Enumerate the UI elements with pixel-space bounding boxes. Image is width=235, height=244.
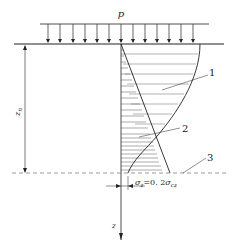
callout-1: 1	[209, 67, 215, 78]
depth-dimension	[23, 45, 27, 173]
additional-stress-curve	[128, 44, 200, 173]
callout-leader-1	[162, 75, 208, 90]
stress-distribution-diagram: p	[0, 0, 235, 244]
self-weight-stress-hatch	[121, 50, 162, 170]
distributed-load	[40, 24, 209, 43]
z-axis-arrow-icon	[119, 233, 123, 240]
callout-3: 3	[207, 152, 213, 163]
z-axis-label: z	[111, 222, 116, 230]
depth-label: zn	[13, 108, 23, 117]
load-label: p	[118, 8, 125, 19]
condition-text: σz=0. 2σcz	[135, 178, 177, 188]
callout-leader-2	[139, 128, 180, 137]
callout-2: 2	[182, 123, 188, 134]
callout-leader-3	[183, 158, 206, 173]
additional-stress-hatch	[121, 54, 198, 124]
self-weight-stress-line	[121, 44, 170, 173]
